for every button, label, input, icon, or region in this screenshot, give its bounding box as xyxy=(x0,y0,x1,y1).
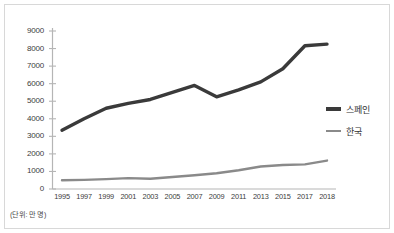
y-axis-tick-label: 0 xyxy=(14,184,44,193)
y-axis-tick-label: 5000 xyxy=(14,96,44,105)
legend-label: 스페인 xyxy=(346,103,369,116)
line-chart: 9000800070006000500040003000200010000 19… xyxy=(0,0,394,233)
y-axis-tick-label: 1000 xyxy=(14,166,44,175)
x-axis-tick-label: 2005 xyxy=(160,192,184,201)
legend-swatch-icon xyxy=(326,130,341,133)
series-line-0 xyxy=(62,44,327,130)
y-axis-tick-label: 6000 xyxy=(14,79,44,88)
series-line-1 xyxy=(62,161,327,181)
x-axis-tick-label: 1999 xyxy=(94,192,118,201)
legend-swatch-icon xyxy=(326,107,341,111)
x-axis-tick-label: 2003 xyxy=(138,192,162,201)
unit-note: (단위: 만 명) xyxy=(10,209,46,219)
x-axis-tick-label: 2018 xyxy=(315,192,339,201)
x-axis-tick-label: 1995 xyxy=(50,192,74,201)
y-axis-tick-label: 4000 xyxy=(14,114,44,123)
chart-series-lines xyxy=(62,44,327,180)
x-axis-tick-label: 1997 xyxy=(72,192,96,201)
y-axis-tick-label: 7000 xyxy=(14,61,44,70)
x-axis-tick-label: 2007 xyxy=(183,192,207,201)
chart-legend: 스페인한국 xyxy=(326,98,390,142)
legend-item-0[interactable]: 스페인 xyxy=(326,98,390,120)
x-axis-tick-label: 2001 xyxy=(116,192,140,201)
x-axis-tick-label: 2017 xyxy=(293,192,317,201)
x-axis-tick-label: 2013 xyxy=(249,192,273,201)
x-axis-tick-label: 2011 xyxy=(227,192,251,201)
x-axis-tick-label: 2009 xyxy=(205,192,229,201)
x-axis-tick-label: 2015 xyxy=(271,192,295,201)
y-axis-tick-label: 8000 xyxy=(14,44,44,53)
legend-item-1[interactable]: 한국 xyxy=(326,120,390,142)
chart-screenshot: 9000800070006000500040003000200010000 19… xyxy=(0,0,394,233)
legend-label: 한국 xyxy=(346,125,362,138)
y-axis-tick-label: 3000 xyxy=(14,131,44,140)
y-axis-tick-label: 2000 xyxy=(14,149,44,158)
y-axis-tick-label: 9000 xyxy=(14,26,44,35)
